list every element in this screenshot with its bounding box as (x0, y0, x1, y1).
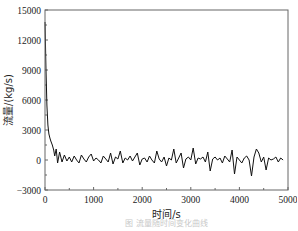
y-tick-label: 3000 (22, 126, 41, 136)
flow-rate-chart: −300003000600090001200015000 01000200030… (0, 0, 297, 231)
plot-frame (45, 10, 288, 190)
y-tick-label: 6000 (22, 96, 41, 106)
x-tick-label: 2000 (133, 195, 152, 205)
x-tick-label: 0 (43, 195, 48, 205)
y-tick-label: 9000 (22, 66, 41, 76)
x-tick-label: 5000 (279, 195, 298, 205)
y-tick-label: 12000 (17, 36, 41, 46)
y-tick-label: 15000 (17, 6, 41, 16)
y-axis-title: 流量/(kg/s) (2, 74, 14, 126)
figure-caption: 图 流量随时间变化曲线 (125, 218, 208, 228)
x-tick-label: 4000 (230, 195, 249, 205)
x-tick-label: 3000 (181, 195, 200, 205)
y-tick-label: −3000 (17, 186, 42, 196)
x-tick-label: 1000 (84, 195, 103, 205)
y-tick-label: 0 (36, 156, 41, 166)
flow-rate-series-line (45, 22, 283, 176)
y-axis: −300003000600090001200015000 (17, 6, 48, 196)
